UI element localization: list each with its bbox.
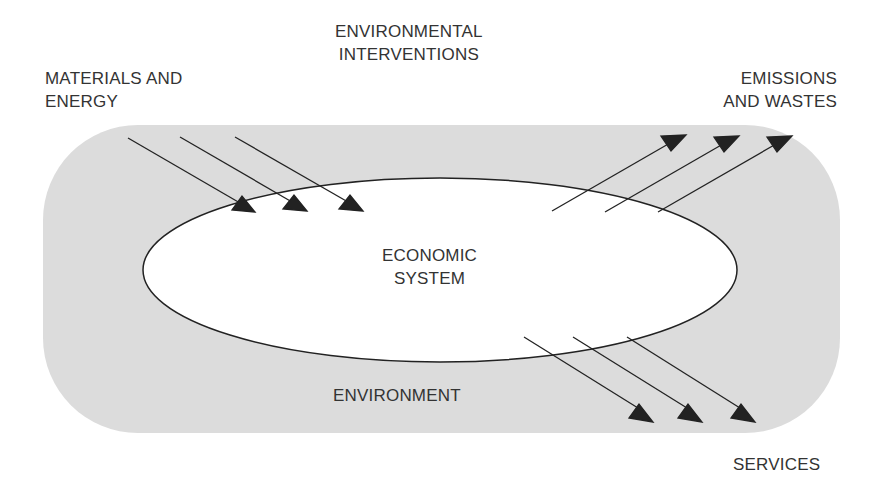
emissions-wastes-label: EMISSIONS AND WASTES <box>723 67 837 113</box>
environment-label: ENVIRONMENT <box>333 384 461 407</box>
economic-system-label: ECONOMIC SYSTEM <box>382 244 477 290</box>
environmental-interventions-label: ENVIRONMENTAL INTERVENTIONS <box>335 20 483 66</box>
services-label: SERVICES <box>733 453 820 476</box>
materials-energy-label: MATERIALS AND ENERGY <box>45 67 182 113</box>
